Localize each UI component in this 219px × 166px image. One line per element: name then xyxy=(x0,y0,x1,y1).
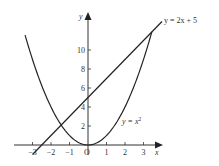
parabola-label: y = x2 xyxy=(121,116,142,126)
y-axis-label: y xyxy=(78,12,83,21)
y-tick-label: 2 xyxy=(81,122,85,131)
x-axis-label: x xyxy=(154,148,159,157)
y-tick-label: 10 xyxy=(77,46,85,55)
x-tick-label: 2 xyxy=(123,148,127,157)
origin-label: O xyxy=(84,148,90,157)
x-tick-label: −1 xyxy=(65,148,74,157)
line-curve xyxy=(33,22,163,155)
x-tick-label: −2 xyxy=(47,148,56,157)
y-tick-label: 6 xyxy=(81,84,85,93)
x-tick-label: −3 xyxy=(28,148,37,157)
chart: −3−2−1123246810 x y O y = 2x + 5 y = x2 xyxy=(0,0,219,166)
x-tick-label: 3 xyxy=(142,148,146,157)
y-tick-label: 8 xyxy=(81,65,85,74)
line-label: y = 2x + 5 xyxy=(164,16,197,25)
plot-area: −3−2−1123246810 x y O y = 2x + 5 y = x2 xyxy=(0,0,219,166)
y-axis-arrow-icon xyxy=(85,12,92,20)
x-tick-label: 1 xyxy=(105,148,109,157)
